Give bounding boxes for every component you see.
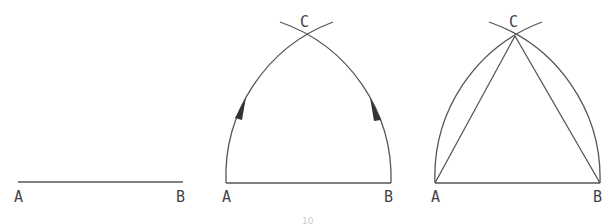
label-b: B: [176, 188, 185, 206]
construction-diagram: A B A B C A B C 10: [0, 0, 615, 224]
label-b: B: [593, 188, 602, 206]
label-c: C: [300, 13, 309, 31]
arc-from-b: [226, 22, 333, 183]
segment-bc: [515, 36, 600, 183]
label-b: B: [384, 188, 393, 206]
label-a: A: [222, 188, 231, 206]
arc-from-a: [489, 22, 600, 183]
label-a: A: [14, 188, 23, 206]
figure-caption: 10: [302, 216, 314, 224]
arrow-up-right-arc-icon: [370, 97, 381, 121]
arc-from-a: [280, 22, 391, 183]
figure-1-segment: A B: [14, 182, 185, 206]
segment-ac: [435, 36, 515, 183]
label-c: C: [509, 13, 518, 31]
arc-from-b: [435, 22, 542, 183]
figure-3-triangle: A B C: [431, 13, 602, 206]
label-a: A: [431, 188, 440, 206]
figure-2-arcs: A B C: [222, 13, 393, 206]
arrow-up-left-arc-icon: [235, 97, 246, 120]
